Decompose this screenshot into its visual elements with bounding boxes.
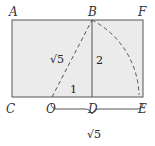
point-label-o: O [46,102,56,116]
point-label-c: C [6,102,15,116]
point-label-f: F [137,5,147,19]
point-label-d: D [87,102,98,116]
golden-rectangle-diagram: A B F C O D E √5 2 1 √5 [0,0,155,146]
label-bd-length: 2 [96,54,103,67]
point-label-a: A [8,5,18,19]
rectangle-acef [12,20,143,97]
point-label-e: E [137,102,147,116]
label-od-length: 1 [70,83,77,96]
label-oe-length: √5 [87,128,101,141]
label-hypotenuse: √5 [50,53,64,66]
point-label-b: B [87,5,97,19]
